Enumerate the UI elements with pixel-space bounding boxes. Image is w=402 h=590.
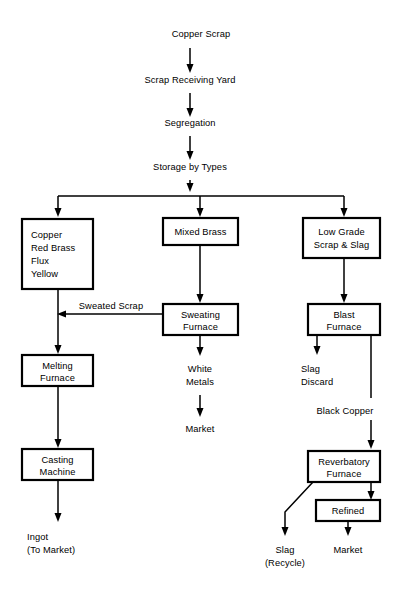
node-market-center: Market [185,424,214,434]
arrowhead-to-segregation [187,108,194,117]
box-melting-furnace-line-1: Melting [42,361,73,371]
arrowhead-to-casting-machine [55,439,62,448]
arrowhead-to-slag-discard [314,346,321,355]
node-slag-discard-line-1: Slag [301,364,320,374]
flowchart-canvas: Copper Scrap Scrap Receiving Yard Segreg… [0,0,402,590]
box-mixed-brass-label: Mixed Brass [174,227,226,237]
arrowhead-to-slag-recycle [282,527,289,536]
box-reverberatory-furnace-line-1: Reverbatory [318,457,370,467]
box-low-grade-line-1: Low Grade [318,227,364,237]
box-casting-machine-line-2: Machine [40,467,76,477]
node-white-metals-line-1: White [188,364,212,374]
edge-reverberatory-to-slag-recycle [285,482,313,530]
node-copper-scrap: Copper Scrap [172,29,231,39]
arrowhead-to-mixed-brass [197,208,204,217]
node-storage-by-types: Storage by Types [153,162,227,172]
arrowhead-to-sweating-furnace [197,294,204,303]
box-feed-mix-line-4: Yellow [31,269,58,279]
box-feed-mix-line-1: Copper [31,230,62,240]
box-low-grade-line-2: Scrap & Slag [314,240,369,250]
box-low-grade[interactable] [303,218,380,258]
box-refined-label: Refined [332,506,365,516]
flowchart-svg: Copper Scrap Scrap Receiving Yard Segreg… [0,0,402,590]
arrowhead-to-market-center [197,408,204,417]
arrowhead-to-blast-furnace [341,294,348,303]
box-sweating-furnace-line-2: Furnace [183,322,218,332]
node-ingot-line-2: (To Market) [27,545,75,555]
arrowhead-to-bus [187,183,194,192]
box-feed-mix-line-3: Flux [31,256,49,266]
node-black-copper: Black Copper [316,406,373,416]
box-feed-mix-line-2: Red Brass [31,243,76,253]
node-scrap-receiving-yard: Scrap Receiving Yard [144,75,235,85]
arrowhead-to-yard [187,64,194,73]
node-white-metals-line-2: Metals [186,377,214,387]
box-blast-furnace-line-2: Furnace [327,322,362,332]
arrowhead-to-feed-mix [55,208,62,217]
arrowhead-to-low-grade [341,208,348,217]
node-market-right: Market [333,545,362,555]
node-ingot-line-1: Ingot [27,532,48,542]
node-slag-recycle-line-1: Slag [275,545,294,555]
arrowhead-to-white-metals [197,347,204,356]
node-segregation: Segregation [164,118,215,128]
arrowhead-to-melting-furnace [55,345,62,354]
arrowhead-to-reverberatory-furnace [368,440,375,449]
arrowhead-to-ingot [55,513,62,522]
box-reverberatory-furnace-line-2: Furnace [327,469,362,479]
arrowhead-to-refined [368,491,375,500]
node-slag-discard-line-2: Discard [301,377,333,387]
arrowhead-to-market-right [345,527,352,536]
box-blast-furnace-line-1: Blast [333,310,354,320]
node-slag-recycle-line-2: (Recycle) [265,558,305,568]
box-melting-furnace-line-2: Furnace [40,373,75,383]
box-casting-machine-line-1: Casting [41,455,73,465]
edge-label-sweated-scrap: Sweated Scrap [79,301,143,311]
arrowhead-to-storage [187,151,194,160]
box-sweating-furnace-line-1: Sweating [181,310,220,320]
